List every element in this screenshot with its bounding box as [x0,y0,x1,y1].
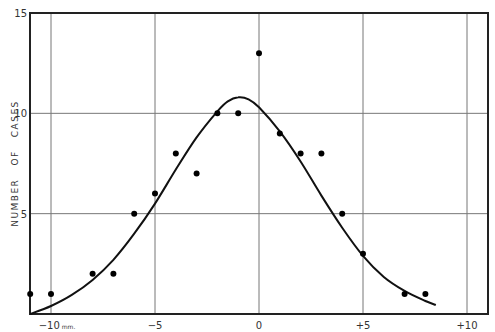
data-point [90,271,96,277]
x-tick-label: +10 [456,320,477,331]
x-tick-label: −5 [148,320,163,331]
data-point [235,110,241,116]
y-tick-label: 5 [21,209,27,220]
x-axis-tick-labels: −10mm.−50+5+10 [39,320,478,331]
data-point [48,291,54,297]
data-point [110,271,116,277]
data-points [27,50,428,297]
data-point [256,50,262,56]
data-point [402,291,408,297]
chart-canvas: −10mm.−50+5+10 51015 NUMBER OF CASES [0,0,495,332]
x-tick-label: 0 [256,320,262,331]
data-point [318,150,324,156]
data-point [298,150,304,156]
data-point [339,211,345,217]
data-point [194,171,200,177]
data-point [214,110,220,116]
data-point [27,291,33,297]
y-tick-label: 15 [14,8,27,19]
data-point [152,191,158,197]
grid-lines [30,13,488,314]
fitted-curve-line [30,97,436,314]
data-point [360,251,366,257]
data-point [131,211,137,217]
y-axis-label: NUMBER OF CASES [10,100,20,227]
x-tick-label: −10mm. [39,320,76,331]
data-point [173,150,179,156]
x-tick-label: +5 [356,320,371,331]
data-point [277,130,283,136]
data-point [422,291,428,297]
